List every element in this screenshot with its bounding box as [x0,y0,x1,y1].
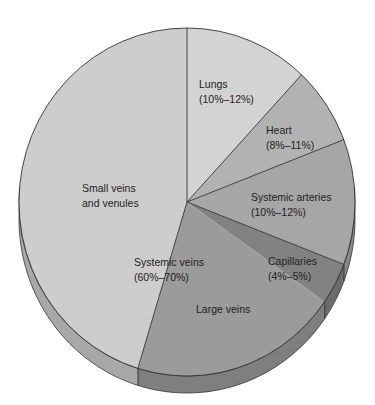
label-heart-range: (8%–11%) [266,139,314,151]
label-small-veins-line2: and venules [82,197,139,209]
label-lungs-range: (10%–12%) [199,93,254,105]
label-capillaries-range: (4%–5%) [268,270,311,282]
pie-chart: Lungs (10%–12%) Heart (8%–11%) Systemic … [0,0,375,405]
label-heart: Heart [266,124,292,136]
label-small-veins: Small veins [82,182,136,194]
label-capillaries: Capillaries [268,255,317,267]
label-systemic-arteries: Systemic arteries [251,191,332,203]
label-systemic-arteries-range: (10%–12%) [251,206,306,218]
label-systemic-veins-range: (60%–70%) [134,271,189,283]
label-systemic-veins: Systemic veins [134,256,204,268]
label-lungs: Lungs [199,78,228,90]
label-large-veins: Large veins [196,303,250,315]
